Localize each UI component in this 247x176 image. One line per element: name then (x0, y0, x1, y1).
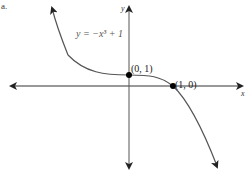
equation-label: y = −x³ + 1 (76, 28, 123, 39)
x-axis-label: x (241, 89, 245, 98)
point-label-1-0: (1, 0) (175, 79, 197, 90)
point-label-0-1: (0, 1) (131, 63, 153, 74)
graph-canvas (0, 0, 247, 176)
y-axis-label: y (121, 4, 125, 13)
